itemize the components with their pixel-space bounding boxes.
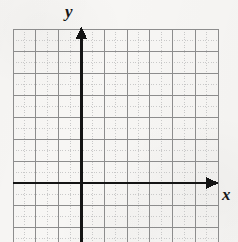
coordinate-plane-svg [0, 0, 238, 242]
minor-gridlines [13, 29, 218, 242]
x-axis [13, 177, 219, 189]
coordinate-grid-figure: y x [0, 0, 238, 242]
y-axis [76, 27, 88, 242]
y-axis-arrowhead [76, 27, 88, 40]
x-axis-label: x [222, 186, 231, 203]
y-axis-label: y [65, 3, 73, 20]
x-axis-arrowhead [206, 177, 219, 189]
